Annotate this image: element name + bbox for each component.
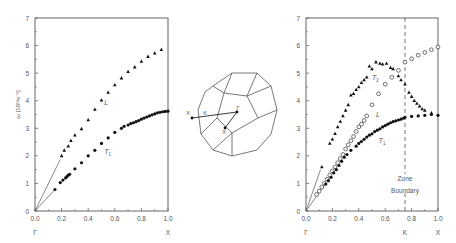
y-tick-label: 6: [296, 42, 300, 49]
x-tick-label: 0.8: [407, 215, 416, 222]
x-tick-label: 0.4: [84, 215, 93, 222]
branch-label: T2: [372, 74, 379, 83]
branch-label: L: [376, 111, 380, 118]
symmetry-point-label: X: [436, 229, 441, 236]
x-tick-label: 0.2: [57, 215, 66, 222]
x-tick-label: 0.4: [354, 215, 363, 222]
y-tick-label: 5: [296, 70, 300, 77]
left-dispersion-chart: 012345670.00.20.40.60.81.0ΓXω [10¹³s⁻¹]L…: [15, 15, 173, 237]
sound-velocity-line: [35, 159, 60, 211]
x-tick-label: 0.6: [381, 215, 390, 222]
y-tick-label: 2: [296, 152, 300, 159]
y-tick-label: 1: [25, 180, 29, 187]
bz-point-label: K: [203, 110, 207, 116]
y-tick-label: 3: [296, 125, 300, 132]
x-tick-label: 0.0: [301, 215, 310, 222]
y-tick-label: 1: [296, 180, 300, 187]
boundary-label: Boundary: [391, 187, 420, 195]
x-tick-label: 0.0: [30, 215, 39, 222]
x-tick-label: 1.0: [163, 215, 172, 222]
plot-frame: [35, 18, 168, 211]
y-tick-label: 7: [25, 15, 29, 22]
bz-point-label: Γ: [236, 105, 239, 111]
x-tick-label: 0.6: [110, 215, 119, 222]
symmetry-point-label: X: [166, 229, 171, 236]
y-tick-label: 0: [296, 208, 300, 215]
branch-label: T1: [104, 148, 111, 157]
x-tick-label: 0.2: [328, 215, 337, 222]
x-tick-label: 1.0: [433, 215, 442, 222]
y-tick-label: 0: [25, 208, 29, 215]
sound-velocity-line: [35, 189, 55, 211]
x-tick-label: 0.8: [137, 215, 146, 222]
y-tick-label: 2: [25, 152, 29, 159]
brillouin-zone-diagram: XKΓX: [186, 73, 277, 156]
y-tick-label: 5: [25, 70, 29, 77]
branch-label: T1: [379, 137, 386, 146]
phonon-dispersion-figure: 012345670.00.20.40.60.81.0ΓXω [10¹³s⁻¹]L…: [0, 0, 456, 243]
right-dispersion-chart: 012345670.00.20.40.60.81.0ΓKXZoneBoundar…: [296, 15, 443, 237]
branch-label: L: [104, 99, 108, 106]
symmetry-point-label: Γ: [33, 229, 37, 236]
bz-point-label: X: [222, 129, 226, 135]
y-tick-label: 4: [296, 97, 300, 104]
y-tick-label: 3: [25, 125, 29, 132]
y-tick-label: 7: [296, 15, 300, 22]
y-tick-label: 4: [25, 97, 29, 104]
symmetry-point-label: Γ: [304, 229, 308, 236]
zone-label: Zone: [398, 175, 413, 182]
symmetry-point-label: K: [403, 229, 408, 236]
series-triangle: [60, 48, 163, 157]
series-circle: [53, 110, 169, 192]
y-tick-label: 6: [25, 42, 29, 49]
bz-point-label: X: [186, 110, 190, 116]
y-axis-label: ω [10¹³s⁻¹]: [15, 90, 21, 119]
